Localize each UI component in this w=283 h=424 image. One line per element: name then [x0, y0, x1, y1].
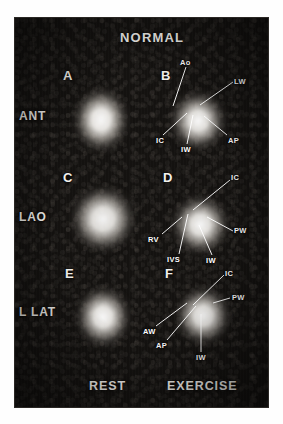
scintigram-plate: NORMAL ANT LAO L LAT REST EXERCISE A B A… — [15, 18, 268, 407]
annotation-panel-f-aw: AW — [143, 327, 156, 336]
panel-letter-b: B — [161, 68, 171, 83]
uptake-blob-panel-d — [159, 180, 247, 266]
panel-letter-e: E — [65, 266, 74, 281]
row-label-ant: ANT — [19, 109, 46, 123]
uptake-blob-panel-a — [59, 72, 143, 164]
scintigraphy-figure: NORMAL ANT LAO L LAT REST EXERCISE A B A… — [0, 0, 283, 424]
annotation-panel-f-iw: IW — [196, 353, 206, 362]
uptake-blob-panel-f — [163, 274, 247, 358]
uptake-blob-panel-c — [57, 172, 149, 266]
uptake-blob-panel-b — [157, 76, 243, 162]
plate-vignette — [15, 18, 268, 407]
annotation-panel-d-pw: PW — [234, 226, 247, 235]
uptake-blob-panel-e — [61, 272, 145, 362]
leader-lines-panel-b — [15, 18, 268, 407]
panel-letter-a: A — [63, 68, 73, 83]
row-label-lao: LAO — [19, 210, 47, 224]
panel-letter-c: C — [63, 170, 73, 185]
annotation-panel-d-iw: IW — [206, 256, 216, 265]
annotation-panel-f-pw: PW — [232, 293, 245, 302]
annotation-panel-b-ap: AP — [228, 136, 239, 145]
scan-banding-texture — [15, 18, 268, 407]
annotation-panel-f-ic: IC — [225, 269, 233, 278]
panel-letter-d: D — [163, 170, 173, 185]
row-label-l-lat: L LAT — [19, 305, 56, 319]
annotation-panel-b-lw: LW — [234, 77, 246, 86]
leader-lines-panel-d — [15, 18, 268, 407]
annotation-panel-f-ap: AP — [156, 341, 167, 350]
annotation-panel-d-ic: IC — [231, 173, 239, 182]
annotation-panel-d-ivs: IVS — [167, 255, 180, 264]
annotation-panel-b-iw: IW — [181, 145, 191, 154]
annotation-panel-b-ic: IC — [156, 136, 164, 145]
figure-title: NORMAL — [120, 30, 184, 45]
leader-lines-panel-f — [15, 18, 268, 407]
film-grain-texture — [15, 18, 268, 407]
annotation-panel-d-rv: RV — [148, 235, 159, 244]
column-label-rest: REST — [89, 379, 126, 393]
column-label-exercise: EXERCISE — [167, 379, 237, 393]
panel-letter-f: F — [165, 266, 173, 281]
annotation-panel-b-ao: Ao — [180, 58, 191, 67]
